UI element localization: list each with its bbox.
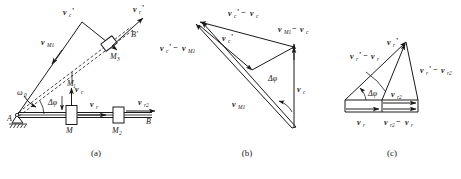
- svg-text:r: r: [411, 122, 414, 128]
- svg-text:c: c: [81, 89, 84, 95]
- caption-a: (a): [91, 148, 101, 158]
- label-vc-a: v c: [75, 85, 84, 95]
- svg-text:': ': [231, 33, 233, 42]
- svg-text:M1: M1: [187, 48, 195, 54]
- svg-text:r: r: [96, 104, 99, 110]
- svg-text:v: v: [371, 52, 375, 61]
- label-point-b-prime: B': [131, 30, 138, 39]
- svg-text:v: v: [222, 34, 226, 43]
- svg-text:v: v: [41, 38, 45, 47]
- svg-text:r2: r2: [447, 70, 452, 76]
- svg-text:r2: r2: [144, 102, 149, 108]
- svg-text:−: −: [396, 117, 401, 126]
- caption-c: (c): [387, 148, 397, 158]
- label-vc-prime-minus-vc-b: v c ' − v c: [228, 8, 259, 19]
- label-vr2-a: v r2: [138, 98, 149, 108]
- label-vr2-c: v r2: [391, 90, 402, 100]
- figure-container: A B B' M M 1 M 2 M 3 ω 0 Δφ v c ' v r ' …: [0, 0, 461, 179]
- label-point-b: B: [146, 117, 151, 126]
- label-delta-phi-a: Δφ: [47, 98, 58, 107]
- svg-text:v: v: [384, 118, 388, 127]
- svg-text:v: v: [160, 44, 164, 53]
- label-omega0: ω 0: [17, 88, 27, 98]
- svg-text:v: v: [232, 100, 236, 109]
- label-vr2-minus-vr-c: v r2 − v r: [384, 117, 414, 128]
- svg-text:0: 0: [24, 92, 27, 98]
- svg-text:M1: M1: [283, 29, 291, 35]
- label-vr-prime-minus-vr2-c: v r ' − v r2: [420, 65, 452, 76]
- svg-text:c: c: [303, 89, 306, 95]
- label-vM1-minus-vc-b: v M1 − v c: [278, 24, 309, 35]
- svg-text:2: 2: [119, 130, 122, 136]
- label-delta-phi-b: Δφ: [267, 74, 278, 83]
- svg-text:v: v: [357, 118, 361, 127]
- svg-text:' −: ' −: [429, 65, 438, 74]
- svg-text:' −: ' −: [359, 51, 368, 60]
- svg-text:v: v: [90, 100, 94, 109]
- label-vM1-a: v M1: [41, 38, 54, 48]
- label-vr-prime-minus-vr-c: v r ' − v r: [350, 51, 380, 62]
- svg-text:c: c: [256, 13, 259, 19]
- label-vr-prime-a: v r ': [133, 4, 144, 15]
- label-layer: A B B' M M 1 M 2 M 3 ω 0 Δφ v c ' v r ' …: [0, 0, 461, 179]
- label-slider-m3: M 3: [109, 52, 120, 62]
- label-vc-prime-a: v c ': [63, 7, 74, 18]
- svg-text:v: v: [133, 5, 137, 14]
- label-delta-phi-c: Δφ: [367, 89, 378, 98]
- svg-text:v: v: [387, 38, 391, 47]
- svg-text:v: v: [405, 118, 409, 127]
- svg-text:v: v: [278, 25, 282, 34]
- label-vM1-b: v M1: [232, 100, 245, 110]
- svg-text:−: −: [292, 24, 297, 33]
- svg-text:c: c: [306, 29, 309, 35]
- label-vr-c: v r: [357, 118, 366, 128]
- svg-text:r2: r2: [397, 94, 402, 100]
- svg-text:v: v: [420, 66, 424, 75]
- svg-text:r: r: [377, 56, 380, 62]
- label-pivot-a: A: [6, 114, 12, 123]
- svg-text:v: v: [228, 9, 232, 18]
- svg-text:v: v: [350, 52, 354, 61]
- label-vc-b: v c: [297, 85, 306, 95]
- svg-text:M1: M1: [237, 104, 245, 110]
- svg-text:v: v: [441, 66, 445, 75]
- svg-text:': ': [396, 37, 398, 46]
- svg-text:' −: ' −: [237, 8, 246, 17]
- svg-text:M1: M1: [46, 42, 54, 48]
- svg-text:': ': [72, 7, 74, 16]
- svg-text:3: 3: [116, 56, 120, 62]
- label-vr-prime-c: v r ': [387, 37, 398, 48]
- label-vc-prime-b: v c ': [222, 33, 233, 44]
- svg-text:v: v: [63, 8, 67, 17]
- svg-text:r: r: [363, 122, 366, 128]
- svg-text:v: v: [138, 98, 142, 107]
- label-vr-a: v r: [90, 100, 99, 110]
- svg-text:v: v: [182, 44, 186, 53]
- svg-text:' −: ' −: [169, 43, 178, 52]
- svg-text:ω: ω: [17, 88, 23, 97]
- svg-text:v: v: [300, 25, 304, 34]
- svg-text:v: v: [297, 85, 301, 94]
- caption-b: (b): [242, 148, 253, 158]
- label-slider-m: M: [65, 126, 74, 135]
- label-vc-prime-minus-vM1-b: v c ' − v M1: [160, 43, 195, 54]
- svg-text:r2: r2: [390, 122, 395, 128]
- svg-text:v: v: [75, 85, 79, 94]
- svg-text:v: v: [250, 9, 254, 18]
- svg-text:v: v: [391, 90, 395, 99]
- svg-text:': ': [142, 4, 144, 13]
- label-slider-m2: M 2: [111, 126, 122, 136]
